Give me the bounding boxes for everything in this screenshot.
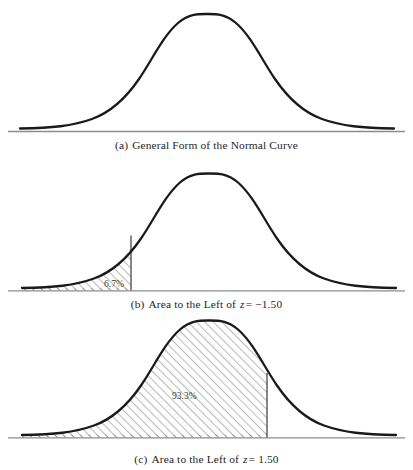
normal-curve-path-b <box>22 173 396 288</box>
normal-curve-path-a <box>20 14 394 129</box>
panel-b-caption-prefix: Area to the Left of <box>148 298 236 310</box>
panel-a-caption: (a)General Form of the Normal Curve <box>0 139 413 151</box>
panel-c-caption: (c)Area to the Left of z= 1.50 <box>0 453 413 465</box>
panel-area-left-of-negative-1-50: (b)Area to the Left of z= −1.50 <box>0 155 413 320</box>
area-percent-label-b: 6.7% <box>104 278 124 289</box>
panel-b-z-variable: z <box>239 298 246 310</box>
panel-b-label: (b) <box>131 298 145 310</box>
panel-area-left-of-1-50: (c)Area to the Left of z= 1.50 <box>0 313 413 470</box>
normal-curve-plot-c <box>0 313 413 470</box>
panel-a-caption-text: General Form of the Normal Curve <box>132 139 298 151</box>
panel-b-caption: (b)Area to the Left of z= −1.50 <box>0 298 413 310</box>
panel-c-label: (c) <box>134 453 147 465</box>
normal-curve-plot-a <box>0 0 413 160</box>
normal-curve-figure: (a)General Form of the Normal Curve <box>0 0 413 470</box>
panel-a-label: (a) <box>115 139 128 151</box>
panel-c-caption-equation: = 1.50 <box>249 453 279 465</box>
normal-curve-plot-b <box>0 155 413 320</box>
area-percent-label-c: 93.3% <box>172 390 197 401</box>
panel-b-caption-equation: = −1.50 <box>246 298 283 310</box>
panel-general-normal-curve: (a)General Form of the Normal Curve <box>0 0 413 160</box>
tail-hatch-strip-c <box>22 435 267 438</box>
panel-c-z-variable: z <box>242 453 249 465</box>
panel-c-caption-prefix: Area to the Left of <box>151 453 239 465</box>
